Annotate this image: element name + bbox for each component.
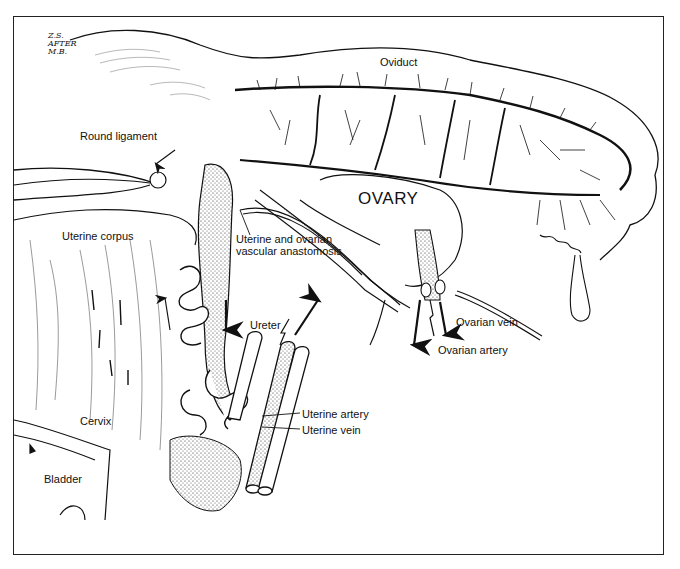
label-anastomosis: Uterine and ovarian vascular anastomosis [236,233,342,257]
label-anastomosis-line-1: Uterine and ovarian [236,233,342,245]
label-ovarian-artery: Ovarian artery [438,344,508,356]
label-ovary: OVARY [358,190,418,208]
oviduct-arcades [235,72,630,230]
label-round-ligament: Round ligament [80,130,157,142]
label-uterine-artery: Uterine artery [302,408,369,420]
ligament-hatching [95,49,210,100]
signature-line-3: M.B. [48,48,77,56]
label-bladder: Bladder [44,473,82,485]
uterine-corpus-dark-marks [92,290,128,385]
label-uterine-vein: Uterine vein [302,424,361,436]
label-ureter: Ureter [250,319,281,331]
fimbriae [540,235,590,321]
broad-ligament-outline [14,30,658,260]
artist-signature: Z.S. AFTER M.B. [48,32,77,56]
label-oviduct: Oviduct [380,56,417,68]
label-uterine-corpus: Uterine corpus [62,230,134,242]
label-anastomosis-line-2: vascular anastomosis [236,245,342,257]
label-ovarian-vein: Ovarian vein [456,316,518,328]
anatomical-illustration [0,0,680,569]
cervix-dark-region [170,436,241,511]
label-cervix: Cervix [80,415,111,427]
